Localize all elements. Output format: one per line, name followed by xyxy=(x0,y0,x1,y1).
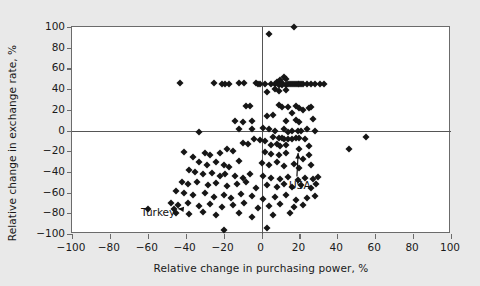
scatter-point xyxy=(302,135,309,142)
scatter-point xyxy=(226,163,233,170)
scatter-point xyxy=(180,189,187,196)
x-tick-mark xyxy=(148,234,149,239)
scatter-point xyxy=(184,181,191,188)
y-tick-label: −100 xyxy=(25,227,65,239)
scatter-point xyxy=(247,102,254,109)
scatter-point xyxy=(248,214,255,221)
x-tick-mark xyxy=(224,234,225,239)
scatter-chart-figure: Relative change in exchange rate, % Rela… xyxy=(0,0,480,286)
y-tick-label: 40 xyxy=(25,82,65,94)
scatter-point xyxy=(212,158,219,165)
scatter-point xyxy=(252,185,259,192)
scatter-point xyxy=(267,151,274,158)
scatter-point xyxy=(277,200,284,207)
x-tick-mark xyxy=(375,234,376,239)
scatter-point xyxy=(300,156,307,163)
y-tick-label: 20 xyxy=(25,103,65,115)
scatter-point xyxy=(241,79,248,86)
scatter-point xyxy=(300,201,307,208)
scatter-point xyxy=(199,170,206,177)
scatter-point xyxy=(267,175,274,182)
scatter-point xyxy=(228,194,235,201)
scatter-point xyxy=(203,161,210,168)
scatter-point xyxy=(305,152,312,159)
scatter-point xyxy=(266,161,273,168)
annotation-label-usa: USA xyxy=(289,179,311,191)
scatter-point xyxy=(248,192,255,199)
scatter-point xyxy=(235,157,242,164)
y-tick-label: 80 xyxy=(25,41,65,53)
scatter-point xyxy=(212,212,219,219)
y-tick-label: −40 xyxy=(25,165,65,177)
scatter-point xyxy=(216,150,223,157)
scatter-point xyxy=(241,199,248,206)
x-tick-mark xyxy=(72,234,73,239)
scatter-point xyxy=(180,149,187,156)
scatter-point xyxy=(290,204,297,211)
scatter-point xyxy=(264,182,271,189)
x-axis-label: Relative change in purchasing power, % xyxy=(71,262,451,274)
scatter-point xyxy=(275,88,282,95)
scatter-point xyxy=(195,128,202,135)
scatter-point xyxy=(311,192,318,199)
scatter-point xyxy=(345,146,352,153)
scatter-point xyxy=(288,109,295,116)
annotation-label-turkey: Turkey xyxy=(141,206,175,218)
y-tick-label: −80 xyxy=(25,206,65,218)
scatter-point xyxy=(283,141,290,148)
scatter-point xyxy=(283,118,290,125)
scatter-point xyxy=(184,199,191,206)
scatter-point xyxy=(254,205,261,212)
y-tick-mark xyxy=(67,151,72,152)
scatter-point xyxy=(211,79,218,86)
scatter-point xyxy=(226,80,233,87)
scatter-point xyxy=(266,31,273,38)
scatter-point xyxy=(248,126,255,133)
x-tick-mark xyxy=(451,234,452,239)
scatter-point xyxy=(224,183,231,190)
scatter-point xyxy=(296,146,303,153)
y-tick-mark xyxy=(67,89,72,90)
scatter-point xyxy=(220,191,227,198)
y-tick-label: −20 xyxy=(25,144,65,156)
scatter-point xyxy=(283,150,290,157)
scatter-point xyxy=(207,200,214,207)
scatter-point xyxy=(269,212,276,219)
scatter-point xyxy=(212,180,219,187)
scatter-point xyxy=(194,179,201,186)
y-tick-label: 100 xyxy=(25,20,65,32)
scatter-point xyxy=(230,201,237,208)
scatter-point xyxy=(283,191,290,198)
x-tick-mark xyxy=(337,234,338,239)
scatter-point xyxy=(237,190,244,197)
scatter-point xyxy=(273,184,280,191)
scatter-point xyxy=(307,161,314,168)
y-tick-label: 0 xyxy=(25,124,65,136)
scatter-point xyxy=(296,164,303,171)
scatter-point xyxy=(222,170,229,177)
scatter-point xyxy=(186,211,193,218)
plot-area xyxy=(71,26,450,233)
scatter-point xyxy=(176,79,183,86)
y-tick-label: 60 xyxy=(25,61,65,73)
y-tick-mark xyxy=(67,131,72,132)
x-tick-mark xyxy=(299,234,300,239)
scatter-point xyxy=(205,182,212,189)
x-tick-mark xyxy=(110,234,111,239)
scatter-point xyxy=(231,172,238,179)
scatter-point xyxy=(247,170,254,177)
scatter-point xyxy=(296,119,303,126)
scatter-point xyxy=(235,210,242,217)
x-tick-mark xyxy=(262,234,263,239)
scatter-point xyxy=(311,127,318,134)
scatter-point xyxy=(281,181,288,188)
scatter-point xyxy=(173,187,180,194)
y-tick-label: −60 xyxy=(25,186,65,198)
y-tick-mark xyxy=(67,68,72,69)
scatter-point xyxy=(245,140,252,147)
scatter-point xyxy=(309,116,316,123)
scatter-point xyxy=(190,191,197,198)
x-tick-mark xyxy=(186,234,187,239)
scatter-point xyxy=(292,196,299,203)
scatter-point xyxy=(209,169,216,176)
